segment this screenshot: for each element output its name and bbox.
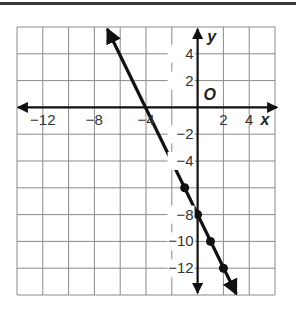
x-tick-label: −8 [86,111,103,128]
y-tick-label: 2 [185,72,193,89]
y-tick-label: 4 [185,45,193,62]
grid [17,27,275,295]
tick-labels: −12−8−42442−2−4−8−10−12xyO [30,28,270,277]
y-tick-label: −12 [168,259,193,276]
y-axis-label: y [206,28,217,45]
x-tick-label: 4 [245,111,253,128]
data-point [180,183,189,192]
data-point [219,264,228,273]
y-tick-label: −4 [176,152,193,169]
x-tick-label: 2 [219,111,227,128]
x-tick-label: −4 [137,111,154,128]
y-tick-label: −10 [168,232,193,249]
data-point [206,237,215,246]
x-axis-label: x [260,111,271,128]
origin-label: O [204,86,217,103]
x-tick-label: −12 [30,111,55,128]
coordinate-plane: −12−8−42442−2−4−8−10−12xyO [0,0,296,310]
y-tick-label: −2 [176,125,193,142]
y-tick-label: −8 [176,206,193,223]
